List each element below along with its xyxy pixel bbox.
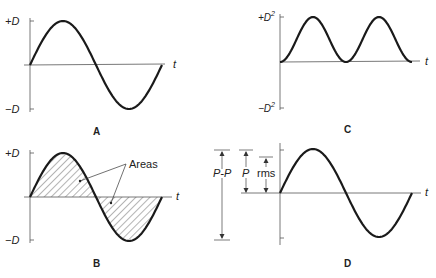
t-axis-label: t xyxy=(425,55,429,67)
peak-marker: P xyxy=(239,150,253,193)
t-axis-label: t xyxy=(176,190,180,202)
waveform-figure: +D −D t A +D2 −D2 t C Areas +D −D t B xyxy=(0,0,436,278)
t-axis-label: t xyxy=(173,58,177,70)
panel-a: +D −D t A xyxy=(5,15,177,137)
peak-to-peak-marker: P-P xyxy=(213,150,232,240)
rms-marker: rms xyxy=(257,157,276,193)
y-min-label: −D xyxy=(5,103,19,115)
leader-line xyxy=(80,164,126,181)
panel-label: C xyxy=(344,124,351,135)
t-axis-label: t xyxy=(425,186,429,198)
peak-label: P xyxy=(242,167,250,179)
panel-b: Areas +D −D t B xyxy=(5,147,180,269)
peak-to-peak-label: P-P xyxy=(213,167,232,179)
y-max-label: +D2 xyxy=(258,10,275,23)
squared-sine-curve xyxy=(280,17,412,62)
y-max-label: +D xyxy=(5,147,19,159)
y-min-label: −D xyxy=(5,234,19,246)
y-max-label: +D xyxy=(5,15,19,27)
panel-d: P-P P rms t D xyxy=(213,143,429,269)
panel-label: A xyxy=(93,126,100,137)
panel-label: B xyxy=(93,258,100,269)
rms-label: rms xyxy=(257,167,276,179)
panel-label: D xyxy=(344,258,351,269)
areas-annotation: Areas xyxy=(129,158,158,170)
y-min-label: −D2 xyxy=(258,101,275,114)
panel-c: +D2 −D2 t C xyxy=(258,10,429,135)
